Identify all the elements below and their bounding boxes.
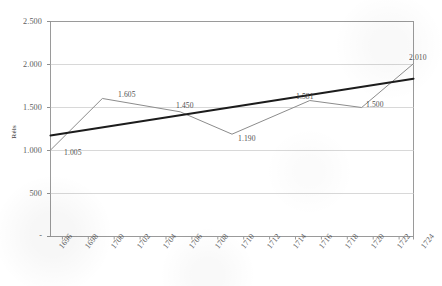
data-label-1700: 1.605 — [118, 90, 136, 99]
ytick-label-2000: 2.000 — [4, 60, 42, 69]
data-label-1720: 1.500 — [366, 100, 384, 109]
data-label-1716: 1.581 — [296, 92, 314, 101]
chart-figure: Réis 2.500 2.000 1.500 1.000 500 - 1696 … — [0, 0, 442, 286]
data-label-1706: 1.450 — [176, 101, 194, 110]
ytick-label-1500: 1.500 — [4, 103, 42, 112]
ytick-label-500: 500 — [4, 189, 42, 198]
plot-area-border — [51, 22, 414, 237]
data-label-1710: 1.190 — [238, 134, 256, 143]
data-label-1724: 2.010 — [409, 53, 427, 62]
ytick-marks — [47, 22, 51, 237]
y-axis-title-text: Réis — [0, 112, 34, 152]
data-label-1696: 1.005 — [64, 148, 82, 157]
y-axis-title: Réis — [2, 112, 26, 152]
ytick-label-2500: 2.500 — [4, 17, 42, 26]
ytick-label-0: - — [4, 231, 42, 240]
